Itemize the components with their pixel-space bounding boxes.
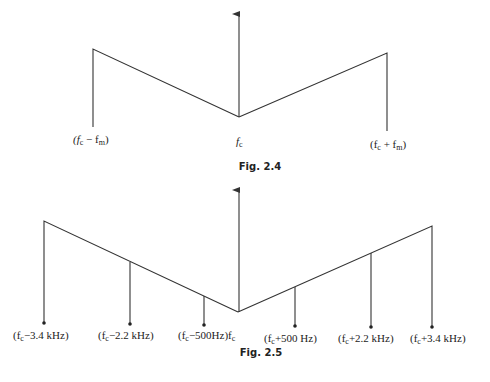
figure-2-4: (fc − fm) fc (fc + fm) Fig. 2.4	[73, 14, 407, 172]
dot-marker	[202, 323, 206, 327]
label-fc-plus-3-4k: (fc+3.4 kHz)	[410, 332, 466, 346]
label-fc: fc	[236, 135, 243, 149]
dot-marker	[128, 322, 132, 326]
lower-sideband-envelope	[44, 221, 238, 323]
label-fc-plus-2-2k: (fc+2.2 kHz)	[338, 332, 394, 346]
label-fc-minus-3-4k: (fc−3.4 kHz)	[13, 329, 69, 343]
lower-sideband-envelope	[93, 49, 239, 127]
dot-marker	[293, 324, 297, 328]
upper-sideband-envelope	[239, 53, 387, 131]
diagram-canvas: (fc − fm) fc (fc + fm) Fig. 2.4 (fc−3.4 …	[0, 0, 490, 382]
label-fc-plus-500: (fc+500 Hz)	[264, 332, 317, 346]
dot-marker	[430, 325, 434, 329]
label-fc-minus-2-2k: (fc−2.2 kHz)	[98, 329, 154, 343]
label-fc-plus-fm: (fc + fm)	[370, 138, 407, 152]
figure-caption: Fig. 2.4	[239, 161, 281, 172]
dot-marker	[369, 325, 373, 329]
figure-2-5: (fc−3.4 kHz) (fc−2.2 kHz) (fc−500Hz)fc (…	[13, 190, 466, 358]
dot-marker	[42, 321, 46, 325]
label-fc-minus-fm: (fc − fm)	[73, 133, 109, 147]
label-fc-minus-500: (fc−500Hz)fc	[178, 329, 236, 343]
figure-caption: Fig. 2.5	[240, 347, 282, 358]
upper-sideband-envelope	[238, 226, 432, 327]
